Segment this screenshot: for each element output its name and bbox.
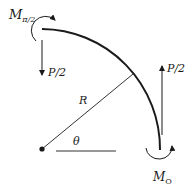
radius-line	[42, 74, 133, 149]
radius-label: R	[78, 94, 87, 107]
curved-beam	[42, 29, 160, 150]
center-point	[39, 146, 44, 151]
angle-label: θ	[73, 135, 80, 148]
moment-bottom-label: MO	[152, 170, 172, 186]
force-right-label: P/2	[166, 62, 185, 75]
force-left-label: P/2	[47, 66, 66, 79]
moment-top-label: Mπ/2	[8, 7, 35, 24]
curved-beam-diagram: Mπ/2 P/2 P/2 R θ MO	[0, 0, 193, 190]
